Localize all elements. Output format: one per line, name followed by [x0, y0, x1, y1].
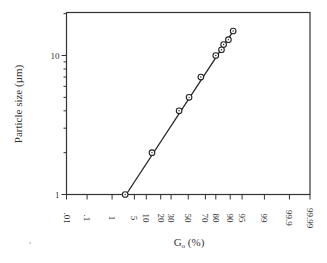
x-tick-label: 1: [107, 216, 117, 221]
data-series: [122, 28, 236, 197]
y-tick-label: 1: [55, 190, 60, 200]
x-tick-label: 30: [166, 214, 176, 224]
x-axis: .01.11510203050708090959999.999.99: [62, 195, 316, 229]
data-point-center: [223, 44, 224, 45]
x-tick-label: 95: [237, 214, 247, 224]
data-point-center: [228, 39, 229, 40]
stray-mark: [29, 242, 30, 243]
x-tick-label: 99.99: [305, 208, 315, 229]
x-axis-title-suffix: (%): [185, 236, 205, 249]
data-point-center: [151, 152, 152, 153]
x-tick-label: 70: [200, 214, 210, 224]
x-axis-title: Go (%): [174, 236, 205, 250]
y-tick-label: 10: [51, 51, 61, 61]
y-axis-title: Particle size (µm): [12, 64, 25, 143]
data-point-center: [232, 30, 233, 31]
y-axis: 110: [51, 14, 71, 200]
x-tick-label: 99: [259, 214, 269, 224]
data-point-center: [124, 194, 125, 195]
data-point-center: [200, 76, 201, 77]
data-point-center: [221, 49, 222, 50]
x-axis-title-main: G: [174, 236, 182, 248]
x-tick-label: 90: [225, 214, 235, 224]
data-point-center: [178, 110, 179, 111]
x-tick-label: 20: [156, 214, 166, 224]
x-tick-label: .01: [62, 212, 72, 223]
plot-frame: [67, 13, 311, 195]
x-tick-label: 50: [183, 214, 193, 224]
x-tick-label: 10: [141, 214, 151, 224]
data-point-center: [215, 55, 216, 56]
x-tick-label: .1: [82, 215, 92, 222]
data-point-center: [188, 97, 189, 98]
x-tick-label: 99.9: [284, 210, 294, 226]
x-tick-label: 5: [129, 216, 139, 221]
probability-chart: 110 .01.11510203050708090959999.999.99 P…: [0, 0, 327, 263]
x-tick-label: 80: [211, 214, 221, 224]
